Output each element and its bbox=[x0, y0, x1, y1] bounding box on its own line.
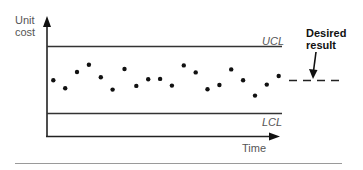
desired-result-label-line2: result bbox=[306, 39, 336, 51]
data-point bbox=[51, 78, 55, 82]
data-point bbox=[253, 93, 257, 97]
data-point bbox=[146, 77, 150, 81]
data-point bbox=[241, 78, 245, 82]
data-point bbox=[205, 87, 209, 91]
data-point bbox=[217, 83, 221, 87]
data-point bbox=[134, 84, 138, 88]
desired-result-label-line1: Desired bbox=[306, 27, 346, 39]
desired-result-arrowhead-icon bbox=[309, 69, 318, 79]
x-axis-label: Time bbox=[242, 142, 266, 154]
data-point bbox=[194, 70, 198, 74]
y-axis-arrow-icon bbox=[43, 16, 51, 27]
y-axis-label-line2: cost bbox=[15, 26, 35, 38]
control-chart bbox=[0, 0, 363, 170]
data-points bbox=[51, 62, 281, 97]
data-point bbox=[182, 63, 186, 67]
ucl-label: UCL bbox=[262, 35, 284, 47]
data-point bbox=[110, 87, 114, 91]
data-point bbox=[75, 70, 79, 74]
data-point bbox=[99, 75, 103, 79]
data-point bbox=[229, 67, 233, 71]
data-point bbox=[170, 83, 174, 87]
lcl-label: LCL bbox=[262, 116, 282, 128]
data-point bbox=[87, 62, 91, 66]
data-point bbox=[277, 74, 281, 78]
data-point bbox=[63, 86, 67, 90]
x-axis-arrow-icon bbox=[269, 133, 280, 141]
data-point bbox=[265, 82, 269, 86]
data-point bbox=[158, 77, 162, 81]
desired-result-arrow bbox=[314, 52, 317, 71]
data-point bbox=[122, 67, 126, 71]
y-axis-label-line1: Unit bbox=[15, 14, 35, 26]
